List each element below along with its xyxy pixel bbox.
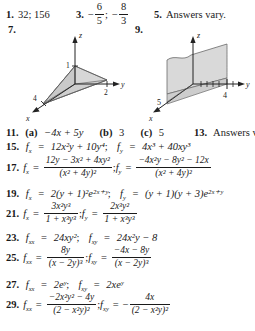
problem-number-15: 15. — [6, 141, 19, 152]
equation-21: 21. fx = 3x²y³ 1 + x³y³ ; fy = 2x³y² 1 +… — [6, 202, 138, 224]
problem-number-19: 19. — [6, 188, 19, 199]
problem-number-27: 27. — [6, 279, 19, 290]
fraction-21-fx: 3x²y³ 1 + x³y³ — [44, 202, 78, 224]
function-symbol-fy: fy — [120, 188, 126, 199]
answer-19-fx: 2(y + 1)²e²ˣ⁺ʸ — [51, 188, 108, 199]
semicolon: ; — [105, 141, 108, 152]
answer-line-29: 29. fxx = −2x²y² − 4y (2 − x²y)² ; fxy =… — [6, 293, 251, 315]
tetrahedron-plane-diagram: z y x 1 2 4 — [0, 22, 128, 126]
semicolon: ; — [66, 279, 69, 290]
axis-label-y: y — [120, 80, 125, 89]
numerator: 8y — [59, 246, 72, 256]
answer-23-fxy: 24x²y − 8 — [117, 232, 158, 243]
answer-line-15: 15. fx = 12x²y + 10y⁴; fy = 4x³ + 40xy³ — [6, 141, 251, 152]
answer-line-21: 21. fx = 3x²y³ 1 + x³y³ ; fy = 2x³y² 1 +… — [6, 202, 251, 224]
figure-7: 7. z y x — [0, 22, 128, 126]
fraction-29-fxy: 4x (2 − x²y)² — [130, 293, 170, 315]
function-symbol-fxy: fxy — [78, 279, 87, 290]
subscript-x: x — [29, 147, 32, 154]
problem-number-9: 9. — [135, 24, 143, 35]
answer-27-fxy: 2xeʸ — [106, 279, 123, 290]
fraction-17-fx: 12y − 3x² + 4xy² (x² + 4y)² — [44, 156, 112, 178]
minus-sign-second: − — [112, 9, 118, 20]
function-symbol-fx: fx — [23, 162, 29, 173]
function-symbol-fx: fx — [23, 208, 29, 219]
fraction-17-fy: −4x²y − 8y² − 12x (x² + 4y)² — [136, 156, 210, 178]
answer-15-fy: 4x³ + 40xy³ — [142, 141, 190, 152]
vertical-plane-diagram: z y x 5 4 — [127, 22, 255, 126]
answer-text-13: Answers vary. — [213, 127, 255, 138]
answer-text-1: 32; 156 — [18, 9, 50, 20]
problem-number-21: 21. — [6, 208, 19, 219]
numerator: −2x²y² − 4y — [47, 293, 96, 303]
answer-line-19: 19. fx = 2(y + 1)²e²ˣ⁺ʸ; fy = (y + 1)(y … — [6, 187, 251, 199]
numerator: 8 — [119, 2, 128, 13]
part-c-label: (c) — [141, 127, 153, 138]
answer-line-27: 27. fxx = 2eʸ; fxy = 2xeʸ — [6, 279, 251, 290]
tick-label-x-5: 5 — [157, 98, 161, 107]
minus-sign-first: − — [88, 9, 94, 20]
part-a-label: (a) — [25, 127, 37, 138]
axis-label-x: x — [25, 114, 30, 123]
answer-23-fxx: 24xy² — [54, 232, 77, 243]
fraction-25-fxx: 8y (x − 2y)³ — [47, 246, 85, 268]
answer-text-5: Answers vary. — [166, 9, 226, 20]
function-symbol-fy: fy — [82, 208, 88, 219]
function-symbol-fxy: fxy — [88, 252, 97, 263]
minus-sign-29: − — [123, 299, 129, 310]
tick-label-y-4: 4 — [223, 91, 227, 100]
function-symbol-fxx: fxx — [26, 232, 35, 243]
numerator: 12y − 3x² + 4xy² — [44, 156, 112, 166]
axis-label-y: y — [245, 80, 250, 89]
function-symbol-fxx: fxx — [23, 252, 32, 263]
numerator: 4x — [143, 293, 156, 303]
equation-29: 29. fxx = −2x²y² − 4y (2 − x²y)² ; fxy =… — [6, 293, 171, 315]
problem-number-13: 13. — [194, 127, 207, 138]
subscript-y: y — [120, 147, 123, 154]
fraction-25-fxy: −4x − 8y (x − 2y)³ — [112, 246, 152, 268]
equation-25: 25. fxx = 8y (x − 2y)³ ; fxy = −4x − 8y … — [6, 246, 152, 268]
function-symbol-fxx: fxx — [23, 299, 32, 310]
denominator: (2 − x²y)² — [51, 306, 91, 316]
semicolon: ; — [77, 232, 80, 243]
numerator: 3x²y³ — [49, 202, 72, 212]
denominator: (x − 2y)³ — [113, 259, 151, 269]
function-symbol-fxy: fxy — [89, 232, 98, 243]
fraction-29-fxx: −2x²y² − 4y (2 − x²y)² — [47, 293, 96, 315]
problem-number-17: 17. — [6, 162, 19, 173]
problem-number-25: 25. — [6, 252, 19, 263]
tick-label-z-1: 1 — [66, 61, 70, 70]
function-symbol-fy: fy — [117, 141, 123, 152]
part-b-label: (b) — [100, 127, 113, 138]
answer-19-fy: (y + 1)(y + 3)e²ˣ⁺ʸ — [145, 188, 223, 199]
problem-number-1: 1. — [6, 9, 14, 20]
fraction-21-fy: 2x³y² 1 + x³y³ — [103, 202, 137, 224]
function-symbol-fx: fx — [26, 188, 32, 199]
answer-11c: 5 — [159, 127, 164, 138]
numerator: −4x²y − 8y² − 12x — [136, 156, 210, 166]
numerator: −4x − 8y — [112, 246, 152, 256]
answer-item-1: 1. 32; 156 — [6, 9, 76, 20]
answer-line-23: 23. fxx = 24xy²; fxy = 24x²y − 8 — [6, 232, 251, 243]
problem-number-11: 11. — [6, 127, 19, 138]
denominator: (x − 2y)³ — [47, 259, 85, 269]
numerator: 2x³y² — [108, 202, 131, 212]
problem-number-23: 23. — [6, 232, 19, 243]
problem-number-5: 5. — [154, 9, 162, 20]
function-symbol-fx: fx — [26, 141, 32, 152]
axis-label-z: z — [78, 31, 83, 40]
separator-semicolon: ; — [105, 9, 108, 20]
numerator: 6 — [95, 2, 104, 13]
answer-key-page: 1. 32; 156 3. − 6 5 ; − 8 3 5. Answers v… — [0, 0, 255, 331]
denominator: (2 − x²y)² — [130, 306, 170, 316]
figures-row: 7. z y x — [0, 22, 255, 126]
equation-17: 17. fx = 12y − 3x² + 4xy² (x² + 4y)² ; f… — [6, 156, 212, 178]
axis-label-z: z — [196, 31, 201, 40]
figure-9: 9. z y x — [127, 22, 255, 126]
problem-number-3: 3. — [76, 9, 84, 20]
answer-line-17: 17. fx = 12y − 3x² + 4xy² (x² + 4y)² ; f… — [6, 156, 251, 178]
answer-27-fxx: 2eʸ — [54, 279, 67, 290]
function-symbol-fy: fy — [116, 162, 122, 173]
denominator: (x² + 4y)² — [153, 169, 193, 179]
answer-line-25: 25. fxx = 8y (x − 2y)³ ; fxy = −4x − 8y … — [6, 246, 251, 268]
